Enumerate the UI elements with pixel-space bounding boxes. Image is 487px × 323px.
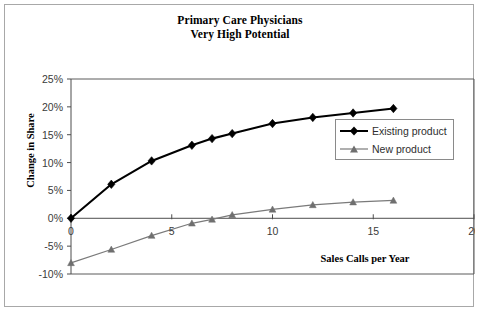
x-tick-label: 20 xyxy=(468,225,475,237)
ticks-group xyxy=(67,79,474,274)
x-tick-label: 0 xyxy=(68,225,74,237)
plot-frame xyxy=(71,79,474,274)
data-point-existing-product xyxy=(188,141,195,149)
x-tick-label: 10 xyxy=(267,225,279,237)
diamond-marker-icon xyxy=(339,125,369,137)
data-point-existing-product xyxy=(148,157,155,165)
data-point-existing-product xyxy=(349,109,356,117)
data-point-existing-product xyxy=(269,119,276,127)
axes-group xyxy=(71,79,474,274)
y-tick-label: 5% xyxy=(48,184,63,196)
y-tick-label: 15% xyxy=(42,129,63,141)
chart-card: Primary Care Physicians Very High Potent… xyxy=(4,4,474,307)
legend-label-existing-product: Existing product xyxy=(372,125,447,137)
x-tick-label: 15 xyxy=(367,225,379,237)
data-point-existing-product xyxy=(229,129,236,137)
y-tick-label: 0% xyxy=(48,212,63,224)
y-tick-label: 10% xyxy=(42,157,63,169)
x-tick-label: 5 xyxy=(169,225,175,237)
y-tick-label: 25% xyxy=(42,73,63,85)
triangle-marker-icon xyxy=(339,143,369,155)
data-point-existing-product xyxy=(309,113,316,121)
y-tick-label: 20% xyxy=(42,101,63,113)
y-tick-label: -5% xyxy=(44,240,63,252)
series-line-new-product xyxy=(71,200,393,262)
y-tick-label: -10% xyxy=(38,268,63,280)
legend-item-new-product: New product xyxy=(336,140,453,158)
legend-label-new-product: New product xyxy=(372,143,431,155)
data-point-existing-product xyxy=(390,104,397,112)
tick-labels-group: -10%-5%0%5%10%15%20%25%05101520 xyxy=(38,73,475,280)
data-point-existing-product xyxy=(208,134,215,142)
legend-item-existing-product: Existing product xyxy=(336,122,453,140)
chart-legend: Existing product New product xyxy=(335,119,454,160)
